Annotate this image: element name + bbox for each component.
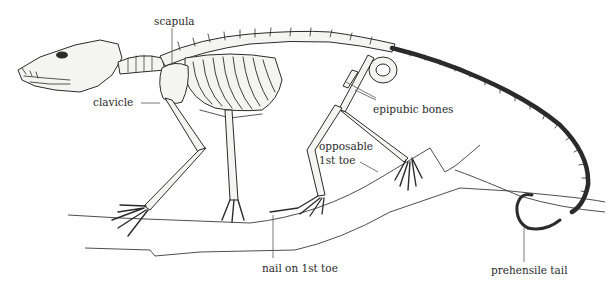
pelvis-hindlimbs [270,55,422,216]
skeleton-illustration [0,0,609,290]
label-opposable: opposable [319,140,373,152]
label-scapula: scapula [154,15,195,27]
forelimbs [112,98,244,236]
skull [18,40,122,92]
label-epipubic-bones: epipubic bones [373,103,453,115]
rib-cage [185,54,282,118]
label-clavicle: clavicle [93,96,133,108]
cervical-vertebrae [118,55,165,74]
opossum-skeleton-diagram: scapula clavicle epipubic bones opposabl… [0,0,609,290]
scapula-bone [160,63,189,103]
label-nail-on-1st-toe: nail on 1st toe [262,262,338,274]
label-prehensile-tail: prehensile tail [491,264,568,276]
tail-vertebrae [392,48,588,229]
label-1st-toe: 1st toe [319,154,355,166]
